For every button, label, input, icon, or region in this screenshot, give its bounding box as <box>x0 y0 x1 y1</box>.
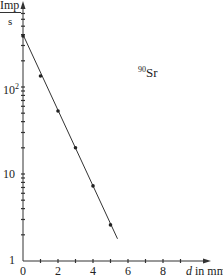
y-tick-label-10: 10 <box>3 168 15 180</box>
x-axis-label: d in mm <box>186 265 223 277</box>
y-tick-label-1: 1 <box>9 254 15 266</box>
x-tick-label-4: 4 <box>90 265 96 277</box>
y-axis-arrow-icon <box>21 1 26 9</box>
y-axis-label-fraction-bar <box>0 12 21 13</box>
x-tick-label-8: 8 <box>160 265 166 277</box>
x-axis-unit: in mm <box>195 264 223 278</box>
x-axis-arrow-icon <box>203 259 211 264</box>
x-tick-label-0: 0 <box>20 265 26 277</box>
x-tick-label-6: 6 <box>125 265 131 277</box>
y-axis-label-denominator: s <box>8 15 12 27</box>
data-point <box>109 223 113 227</box>
y-tick-label-100: 102 <box>3 81 19 96</box>
data-point <box>39 74 43 78</box>
data-point <box>56 109 60 113</box>
isotope-mass: 90 <box>138 65 146 74</box>
annotation-isotope: 90Sr <box>138 64 158 79</box>
data-point <box>91 184 95 188</box>
y-axis-label-numerator: Imp <box>0 0 19 11</box>
data-point <box>21 34 25 38</box>
plot-area <box>0 0 223 278</box>
isotope-element: Sr <box>146 65 158 80</box>
data-point <box>74 146 78 150</box>
fit-line <box>23 35 118 239</box>
x-tick-label-2: 2 <box>55 265 61 277</box>
x-axis-variable: d <box>186 264 192 278</box>
